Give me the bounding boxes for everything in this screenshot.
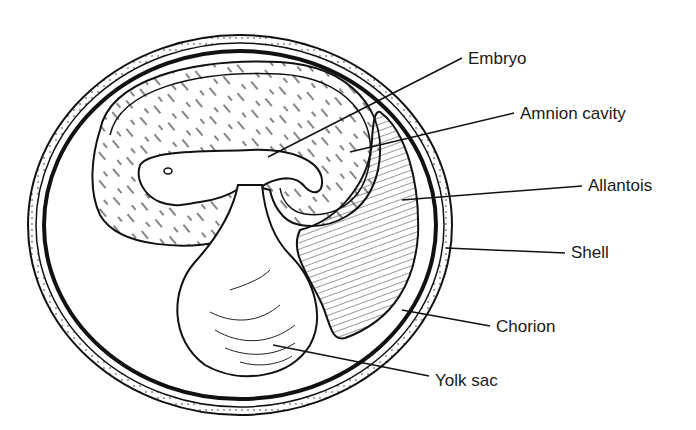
label-embryo: Embryo — [468, 50, 527, 67]
label-yolk-sac: Yolk sac — [435, 372, 498, 389]
label-amnion-cavity: Amnion cavity — [520, 105, 626, 122]
label-allantois: Allantois — [588, 177, 652, 194]
label-chorion: Chorion — [496, 318, 556, 335]
egg-diagram — [0, 0, 696, 430]
label-shell: Shell — [571, 244, 609, 261]
